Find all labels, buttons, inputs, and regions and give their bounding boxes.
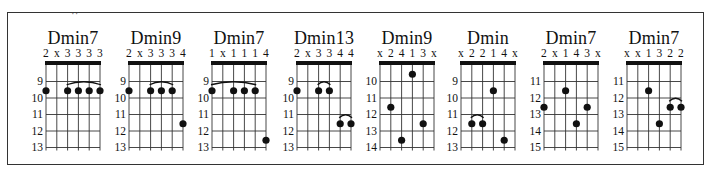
chord-name: Dmin7 (33, 28, 113, 49)
finger-dot (337, 120, 344, 127)
cropped-caption: ·· (71, 7, 78, 19)
fingering-row: x2413x (375, 47, 440, 59)
barre-arc (669, 98, 682, 101)
finger-number: 2 (539, 47, 550, 59)
fretboard-grid (536, 61, 616, 173)
barre-arc (318, 82, 331, 85)
finger-number: 1 (488, 47, 499, 59)
finger-number: 2 (665, 47, 676, 59)
finger-number: 3 (62, 47, 73, 59)
finger-number: 3 (582, 47, 593, 59)
fingering-row: x2214x (456, 47, 521, 59)
finger-dot (293, 87, 300, 94)
finger-dot (501, 137, 508, 144)
finger-number: 3 (324, 47, 335, 59)
finger-dot (179, 120, 186, 127)
finger-number: 4 (396, 47, 407, 59)
finger-dot (147, 87, 154, 94)
fingering-row: 2x3333 (41, 47, 106, 59)
chord-name: Dmin9 (367, 28, 447, 49)
finger-number: x (217, 47, 228, 59)
finger-dot (169, 87, 176, 94)
finger-dot (677, 104, 684, 111)
finger-dot (230, 87, 237, 94)
finger-dot (42, 87, 49, 94)
finger-number: 1 (250, 47, 261, 59)
finger-number: 1 (228, 47, 239, 59)
finger-dot (208, 87, 215, 94)
finger-dot (86, 87, 93, 94)
finger-dot (75, 87, 82, 94)
finger-dot (252, 87, 259, 94)
finger-number: x (302, 47, 313, 59)
finger-number: x (51, 47, 62, 59)
finger-number: 3 (167, 47, 178, 59)
finger-number: 3 (73, 47, 84, 59)
finger-number: 2 (676, 47, 687, 59)
fingering-row: 2x3334 (124, 47, 189, 59)
finger-dot (241, 87, 248, 94)
barre-arc (339, 115, 352, 118)
finger-number: 3 (145, 47, 156, 59)
finger-number: 2 (124, 47, 135, 59)
finger-number: x (593, 47, 604, 59)
chord-name: Dmin7 (614, 28, 694, 49)
finger-number: 4 (261, 47, 272, 59)
finger-dot (584, 104, 591, 111)
finger-dot (125, 87, 132, 94)
finger-number: 1 (643, 47, 654, 59)
fingering-row: 2x3344 (292, 47, 357, 59)
finger-number: x (510, 47, 521, 59)
fretboard-grid (204, 61, 284, 173)
finger-dot (562, 87, 569, 94)
finger-number: x (632, 47, 643, 59)
finger-number: x (375, 47, 386, 59)
finger-number: 4 (346, 47, 357, 59)
finger-dot (398, 137, 405, 144)
fretboard-grid (619, 61, 699, 173)
fretboard-grid (453, 61, 533, 173)
finger-dot (409, 71, 416, 78)
fretboard-grid (121, 61, 201, 173)
finger-number: 4 (178, 47, 189, 59)
finger-number: x (134, 47, 145, 59)
finger-number: 1 (560, 47, 571, 59)
finger-dot (262, 137, 269, 144)
finger-number: 4 (499, 47, 510, 59)
finger-number: 2 (292, 47, 303, 59)
fingering-row: 2x143x (539, 47, 604, 59)
finger-dot (645, 87, 652, 94)
chord-name: Dmin (448, 28, 528, 49)
finger-number: 4 (335, 47, 346, 59)
finger-dot (667, 104, 674, 111)
fingering-row: xx1322 (622, 47, 687, 59)
chord-name: Dmin7 (199, 28, 279, 49)
finger-number: 1 (239, 47, 250, 59)
finger-number: 1 (407, 47, 418, 59)
finger-dot (573, 120, 580, 127)
finger-dot (490, 87, 497, 94)
finger-dot (96, 87, 103, 94)
chord-name: Dmin13 (284, 28, 364, 49)
fretboard-grid (289, 61, 369, 173)
finger-number: 2 (385, 47, 396, 59)
finger-number: 4 (571, 47, 582, 59)
finger-dot (468, 120, 475, 127)
finger-number: x (549, 47, 560, 59)
finger-number: 3 (156, 47, 167, 59)
finger-dot (315, 87, 322, 94)
finger-dot (420, 120, 427, 127)
finger-number: 1 (207, 47, 218, 59)
finger-number: 2 (41, 47, 52, 59)
barre-arc (67, 82, 101, 85)
fingering-row: 1x1114 (207, 47, 272, 59)
finger-dot (656, 120, 663, 127)
finger-number: 3 (418, 47, 429, 59)
finger-dot (158, 87, 165, 94)
barre-arc (471, 115, 484, 118)
fretboard-grid (38, 61, 118, 173)
finger-dot (64, 87, 71, 94)
finger-number: 2 (466, 47, 477, 59)
chord-name: Dmin7 (531, 28, 611, 49)
finger-dot (387, 104, 394, 111)
